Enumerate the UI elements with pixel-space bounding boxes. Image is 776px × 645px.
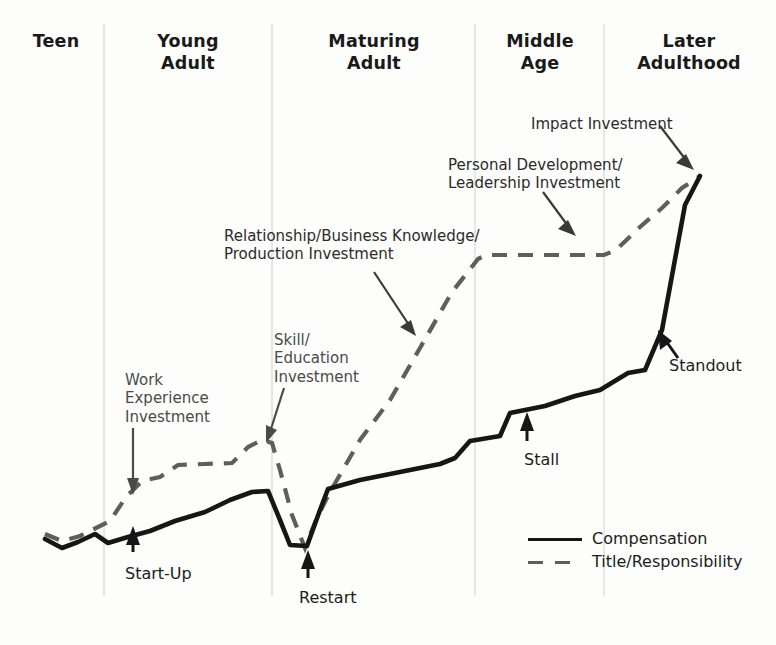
arrow-restart bbox=[301, 550, 315, 578]
annotation-impact-investment: Impact Investment bbox=[531, 115, 673, 133]
legend-label-title-responsibility: Title/Responsibility bbox=[582, 552, 742, 571]
stage-dividers bbox=[104, 24, 604, 596]
career-curve-chart: Teen Young Adult Maturing Adult Middle A… bbox=[0, 0, 776, 645]
arrow-standout bbox=[658, 330, 678, 358]
milestone-restart: Restart bbox=[299, 588, 357, 607]
legend-item-title-responsibility: Title/Responsibility bbox=[528, 550, 758, 573]
milestone-stall: Stall bbox=[524, 450, 559, 469]
annotation-relationship-production-investment: Relationship/Business Knowledge/ Product… bbox=[224, 227, 480, 264]
milestone-start-up: Start-Up bbox=[125, 564, 192, 583]
chart-legend: Compensation Title/Responsibility bbox=[528, 527, 758, 573]
legend-label-compensation: Compensation bbox=[582, 529, 707, 548]
legend-solid-line-icon bbox=[528, 532, 582, 546]
arrow-stall bbox=[520, 412, 534, 441]
legend-dashed-line-icon bbox=[528, 555, 582, 569]
arrow-personal-development-investment bbox=[543, 192, 576, 236]
annotation-personal-development-investment: Personal Development/ Leadership Investm… bbox=[448, 156, 623, 193]
legend-item-compensation: Compensation bbox=[528, 527, 758, 550]
arrow-skill-education-investment bbox=[266, 388, 284, 443]
stage-header-young-adult: Young Adult bbox=[108, 30, 268, 75]
annotation-work-experience-investment: Work Experience Investment bbox=[125, 371, 210, 426]
stage-header-maturing-adult: Maturing Adult bbox=[276, 30, 472, 75]
stage-header-later-adulthood: Later Adulthood bbox=[606, 30, 772, 75]
annotation-skill-education-investment: Skill/ Education Investment bbox=[274, 331, 359, 386]
arrow-relationship-production-investment bbox=[374, 272, 416, 336]
stage-header-middle-age: Middle Age bbox=[479, 30, 601, 75]
stage-header-teen: Teen bbox=[18, 30, 94, 52]
milestone-standout: Standout bbox=[669, 356, 742, 375]
